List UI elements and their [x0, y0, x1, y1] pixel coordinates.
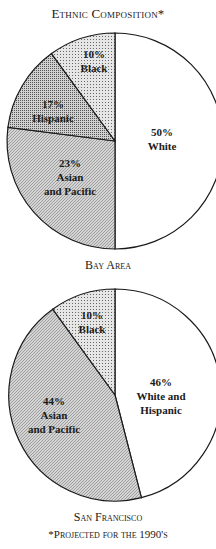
label-black-name: Black — [79, 323, 107, 335]
san-francisco-caption: San Francisco — [0, 510, 216, 525]
label-asian-name1: Asian — [41, 409, 68, 421]
label-black-pct: 10% — [81, 309, 103, 321]
label-black-pct: 10% — [83, 48, 105, 60]
label-white-pct: 46% — [150, 376, 172, 388]
label-white-name2: Hispanic — [140, 404, 182, 416]
label-white-name1: White and — [136, 390, 185, 402]
label-black-name: Black — [81, 62, 109, 74]
label-white-name: White — [148, 140, 177, 152]
label-asian-pct: 23% — [59, 157, 81, 169]
label-asian-name2: and Pacific — [44, 185, 96, 197]
bay-area-caption: Bay Area — [0, 258, 216, 273]
label-asian-name2: and Pacific — [28, 423, 80, 435]
label-asian-name1: Asian — [57, 171, 84, 183]
label-hispanic-name: Hispanic — [32, 112, 74, 124]
label-hispanic-pct: 17% — [42, 98, 64, 110]
label-white-pct: 50% — [151, 126, 173, 138]
bay-area-pie-chart: 10% Black 17% Hispanic 50% White 23% Asi… — [0, 0, 216, 260]
footnote: *Projected for the 1990's — [0, 528, 216, 540]
label-asian-pct: 44% — [43, 395, 65, 407]
san-francisco-pie-chart: 10% Black 46% White and Hispanic 44% Asi… — [0, 280, 216, 510]
